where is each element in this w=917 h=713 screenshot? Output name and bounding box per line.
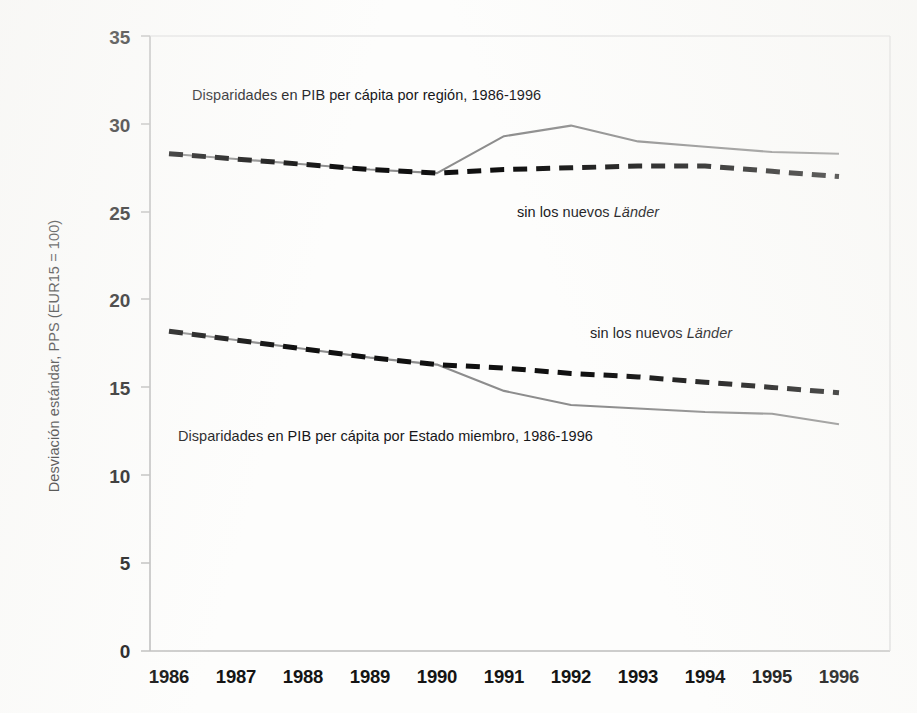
chart-plot-area — [0, 0, 917, 713]
y-axis-ticks — [141, 36, 150, 651]
chart-figure: Desviación estándar, PPS (EUR15 = 100) 3… — [0, 0, 917, 713]
annotation-region-lander: sin los nuevos Länder — [517, 204, 659, 220]
annotation-member-lander: sin los nuevos Länder — [590, 325, 732, 341]
annotation-member-lander-italic: Länder — [687, 325, 732, 341]
annotation-region-lander-italic: Länder — [614, 204, 659, 220]
annotation-member-title: Disparidades en PIB per cápita por Estad… — [178, 428, 593, 444]
data-series-layer — [169, 126, 839, 425]
series-line-3 — [169, 331, 839, 393]
series-line-1 — [169, 154, 839, 177]
annotation-region-lander-prefix: sin los nuevos — [517, 204, 614, 220]
annotation-region-title: Disparidades en PIB per cápita por regió… — [192, 87, 541, 103]
annotation-member-lander-prefix: sin los nuevos — [590, 325, 687, 341]
series-line-0 — [169, 126, 839, 174]
